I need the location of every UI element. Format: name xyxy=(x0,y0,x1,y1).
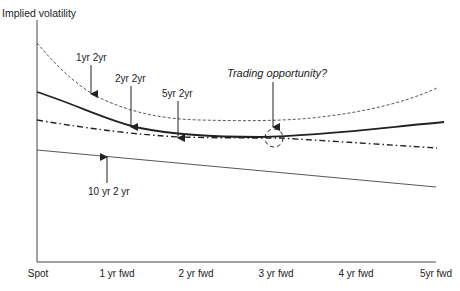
chart-canvas xyxy=(0,0,460,291)
label-2yr-2yr: 2yr 2yr xyxy=(115,73,146,84)
x-tick-5yr: 5yr fwd xyxy=(420,268,452,279)
label-10yr-2yr: 10 yr 2 yr xyxy=(88,186,130,197)
x-tick-1yr: 1 yr fwd xyxy=(99,268,134,279)
label-trading-opportunity: Trading opportunity? xyxy=(227,67,327,79)
x-tick-2yr: 2 yr fwd xyxy=(178,268,213,279)
label-5yr-2yr: 5yr 2yr xyxy=(162,88,193,99)
series-10yr-2yr-line xyxy=(37,150,436,187)
series-5yr-2yr-line xyxy=(37,120,437,148)
x-tick-spot: Spot xyxy=(28,268,49,279)
y-axis-label: Implied volatility xyxy=(2,7,76,19)
x-tick-3yr: 3 yr fwd xyxy=(258,268,293,279)
x-tick-4yr: 4 yr fwd xyxy=(338,268,373,279)
series-2yr-2yr-line xyxy=(37,92,444,137)
label-1yr-2yr: 1yr 2yr xyxy=(76,52,107,63)
